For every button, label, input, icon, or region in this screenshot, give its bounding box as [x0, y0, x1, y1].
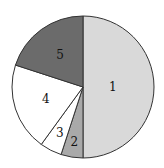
slice-label-5: 5	[56, 48, 64, 62]
slice-label-4: 4	[42, 92, 50, 106]
slice-label-2: 2	[71, 135, 79, 149]
pie-slices	[12, 16, 154, 158]
pie-chart: 12345	[0, 0, 164, 168]
slice-label-3: 3	[56, 126, 64, 140]
slice-label-1: 1	[109, 80, 117, 94]
pie-slice-1	[83, 16, 154, 158]
